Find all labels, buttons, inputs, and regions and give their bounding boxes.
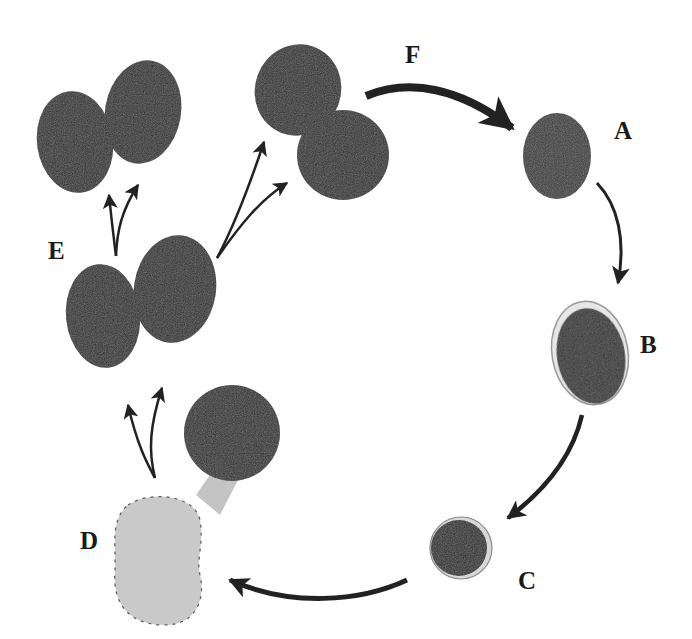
diagram-canvas: [0, 0, 692, 639]
label-a: A: [614, 118, 632, 143]
cell-c: [430, 517, 492, 579]
label-b: B: [640, 332, 657, 357]
label-d: D: [80, 528, 98, 553]
cell-pair-top-middle: [242, 32, 389, 200]
diagram: F A B C D E: [0, 0, 692, 639]
label-c: C: [518, 568, 536, 593]
arrow-e-to-topleft-1: [109, 195, 116, 256]
arrow-f: [366, 87, 512, 128]
cell-pair-e: [61, 230, 223, 372]
cell-b: [544, 295, 637, 411]
arrow-e-to-topleft-2: [116, 185, 138, 256]
label-f: F: [405, 42, 420, 67]
cell-a: [523, 113, 591, 199]
arrow-d-to-e-2: [151, 388, 162, 478]
label-e: E: [48, 238, 65, 263]
cell-pair-top-left: [30, 54, 189, 198]
arrow-e-to-topmiddle-1: [217, 142, 264, 258]
arrow-c-to-d: [230, 580, 407, 598]
arrow-e-to-topmiddle-2: [217, 183, 287, 258]
arrow-b-to-c: [508, 415, 582, 518]
arrow-a-to-b: [597, 183, 621, 283]
